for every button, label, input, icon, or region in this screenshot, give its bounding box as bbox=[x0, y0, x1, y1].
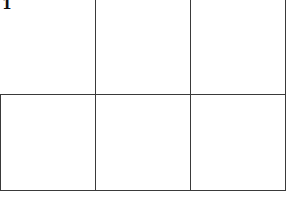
grid-line-vertical-top-2 bbox=[190, 0, 191, 95]
grid-line-horizontal-middle bbox=[0, 94, 286, 95]
grid-line-vertical-bottom-0 bbox=[0, 94, 1, 191]
grid-line-vertical-top-3 bbox=[285, 0, 286, 95]
diagram-label: 1 bbox=[2, 0, 12, 11]
grid-line-vertical-bottom-2 bbox=[190, 94, 191, 191]
grid-line-vertical-bottom-1 bbox=[95, 94, 96, 191]
grid-line-vertical-top-1 bbox=[95, 0, 96, 95]
grid-line-vertical-bottom-3 bbox=[285, 94, 286, 191]
grid-line-horizontal-bottom bbox=[0, 190, 286, 191]
